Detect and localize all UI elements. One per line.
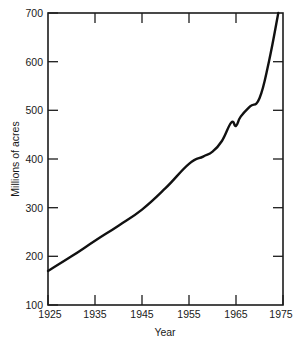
- x-tick-label-1975: 1975: [269, 308, 293, 320]
- x-tick-label-1955: 1955: [177, 308, 201, 320]
- y-axis-ticks-right: [273, 62, 283, 257]
- data-series-line: [48, 13, 278, 271]
- y-tick-label-200: 200: [25, 250, 43, 262]
- x-axis-title: Year: [154, 326, 176, 338]
- y-tick-label-400: 400: [25, 153, 43, 165]
- x-axis-ticks: [48, 295, 283, 305]
- y-tick-label-700: 700: [25, 7, 43, 19]
- y-tick-label-500: 500: [25, 104, 43, 116]
- x-tick-label-1935: 1935: [83, 308, 107, 320]
- y-tick-label-300: 300: [25, 202, 43, 214]
- x-tick-labels: 1925 1935 1945 1955 1965 1975: [38, 308, 293, 320]
- y-axis-ticks: [48, 13, 58, 305]
- plot-frame: [48, 13, 283, 305]
- y-tick-labels: 700 600 500 400 300 200 100: [25, 7, 43, 311]
- y-tick-label-600: 600: [25, 56, 43, 68]
- x-axis-ticks-top: [95, 13, 236, 23]
- x-tick-label-1965: 1965: [224, 308, 248, 320]
- y-axis-title: Millions of acres: [9, 121, 21, 196]
- x-tick-label-1925: 1925: [38, 308, 62, 320]
- chart-figure: 700 600 500 400 300 200 100 1925 1935 19…: [0, 0, 305, 348]
- x-tick-label-1945: 1945: [130, 308, 154, 320]
- line-chart-svg: 700 600 500 400 300 200 100 1925 1935 19…: [0, 0, 305, 348]
